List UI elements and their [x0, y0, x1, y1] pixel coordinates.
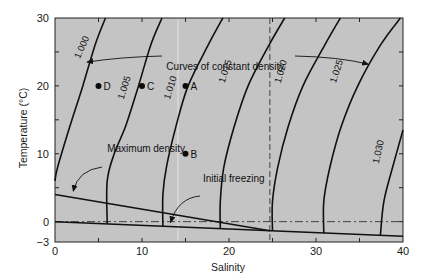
- point-c: [139, 83, 145, 89]
- annotation-curves-of-constant-density: Curves of constant density: [166, 61, 284, 72]
- x-tick-label: 10: [136, 245, 148, 257]
- annotation-maximum-density: Maximum density: [107, 143, 185, 154]
- point-a: [183, 83, 189, 89]
- x-tick-label: 40: [397, 245, 409, 257]
- y-tick-label: 20: [37, 80, 49, 92]
- annotation-initial-freezing: Initial freezing: [203, 173, 265, 184]
- y-tick-label: −3: [36, 236, 49, 248]
- x-tick-label: 0: [52, 245, 58, 257]
- x-tick-label: 20: [223, 245, 235, 257]
- point-label-c: C: [147, 81, 154, 92]
- x-axis-title: Salinity: [211, 261, 246, 273]
- y-tick-label: 30: [37, 12, 49, 24]
- point-d: [96, 83, 102, 89]
- y-tick-label: 0: [43, 216, 49, 228]
- x-tick-label: 30: [310, 245, 322, 257]
- point-label-b: B: [191, 149, 198, 160]
- point-label-d: D: [104, 81, 111, 92]
- temperature-salinity-density-chart: 1.0001.0051.0101.0151.0201.0251.030 ABCD…: [0, 0, 426, 280]
- y-axis-title: Temperature (°C): [17, 88, 29, 169]
- y-tick-label: 10: [37, 148, 49, 160]
- point-label-a: A: [191, 81, 198, 92]
